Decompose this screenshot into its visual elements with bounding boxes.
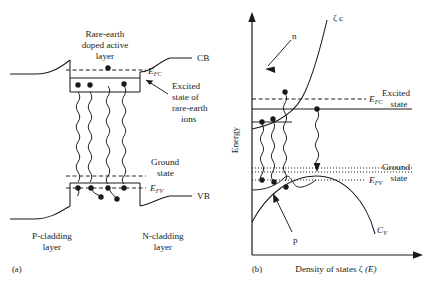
transition-wave-1 xyxy=(76,92,80,182)
cv-label: CV xyxy=(377,225,388,236)
x-axis-title: Density of states ζ (E) xyxy=(295,264,376,274)
carrier-dot xyxy=(75,185,80,190)
x-axis-arrowhead xyxy=(413,251,423,258)
panel-b-tag: (b) xyxy=(252,264,262,274)
excited-state-label-a-line4: ions xyxy=(181,114,197,124)
vb-right-profile xyxy=(140,196,192,206)
active-layer-label-line3: layer xyxy=(96,51,114,61)
carrier-dot xyxy=(283,184,288,189)
efc-label-a: EFC xyxy=(147,66,162,77)
n-annotation-arrowhead xyxy=(265,66,275,73)
carrier-dot xyxy=(88,185,93,190)
excited-state-label-a-line3: rare-earth xyxy=(172,103,208,113)
transition-wave-3 xyxy=(106,86,110,184)
vb-well-box xyxy=(70,183,140,206)
cb-label-a: CB xyxy=(197,53,209,63)
carrier-dot xyxy=(105,185,110,190)
zeta-c-label: ζ c xyxy=(333,13,343,23)
carrier-dot xyxy=(105,65,110,70)
carrier-dot xyxy=(121,185,126,190)
p-cladding-label-line2: layer xyxy=(43,242,61,252)
excited-state-label-b-line1: Excited xyxy=(382,88,410,98)
transition-wave-2 xyxy=(88,92,92,182)
cb-left-profile xyxy=(10,60,70,74)
p-label: p xyxy=(293,235,298,245)
cv-curve xyxy=(252,176,375,234)
efv-label-b: EFV xyxy=(368,175,383,186)
ground-state-label-a-line2: state xyxy=(157,168,174,178)
efv-label-a: EFV xyxy=(149,183,164,194)
carrier-dot xyxy=(87,82,92,87)
carrier-dot xyxy=(98,194,103,199)
transition-wave-4 xyxy=(122,86,126,184)
n-label: n xyxy=(292,31,297,41)
energy-band-diagram-figure: Rare-earth doped active layer CB VB EFC … xyxy=(0,0,438,295)
n-annotation-arrow xyxy=(268,40,291,66)
excited-state-label-b-line2: state xyxy=(391,99,408,109)
y-axis-arrowhead xyxy=(248,12,255,22)
ground-state-label-a-line1: Ground xyxy=(151,157,179,167)
carrier-dot xyxy=(114,196,119,201)
efv-label-a-sub: FV xyxy=(155,187,165,194)
carrier-dot xyxy=(271,179,276,184)
carrier-dot xyxy=(282,89,287,94)
ground-state-label-b-line2: state xyxy=(391,173,408,183)
efc-label-b-sub: FC xyxy=(374,98,384,105)
carrier-dot xyxy=(259,177,264,182)
vb-left-profile xyxy=(10,206,70,219)
carrier-dot xyxy=(259,119,264,124)
panel-a: Rare-earth doped active layer CB VB EFC … xyxy=(10,29,210,274)
transition-wave-b4 xyxy=(315,110,318,170)
excited-state-label-a-line2: state of xyxy=(172,92,200,102)
active-layer-label-line2: doped active xyxy=(82,40,129,50)
p-annotation-arrow xyxy=(275,197,292,232)
p-annotation-arrowhead xyxy=(273,193,280,203)
cv-label-sub: V xyxy=(383,229,388,236)
y-axis-title: Energy xyxy=(230,126,240,153)
transition-wave-b4-arrowhead xyxy=(314,163,321,172)
x-axis-title-suffix: (E) xyxy=(363,264,377,274)
transition-wave-b1 xyxy=(260,124,263,182)
p-cladding-label-line1: P-cladding xyxy=(32,231,72,241)
ground-state-label-b-line1: Ground xyxy=(382,162,410,172)
x-axis-title-prefix: Density of states xyxy=(295,264,359,274)
panel-b: Energy Density of states ζ (E) ζ c CV n … xyxy=(230,12,423,274)
excited-state-label-a-line1: Excited xyxy=(172,81,200,91)
carrier-dot xyxy=(270,116,275,121)
vb-label-a: VB xyxy=(197,191,210,201)
carrier-dot xyxy=(314,106,319,111)
active-layer-label-line1: Rare-earth xyxy=(86,29,125,39)
efc-label-a-sub: FC xyxy=(153,70,163,77)
n-cladding-label-line2: layer xyxy=(154,242,172,252)
carrier-dot xyxy=(75,82,80,87)
zeta-c-curve xyxy=(252,20,327,129)
n-cladding-label-line1: N-cladding xyxy=(142,231,184,241)
efv-label-b-sub: FV xyxy=(374,179,384,186)
panel-a-tag: (a) xyxy=(12,264,22,274)
carrier-dot xyxy=(121,81,126,86)
